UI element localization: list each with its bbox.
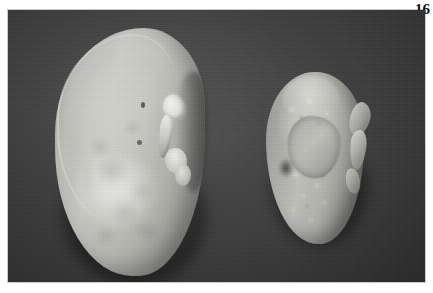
figure-plate: 16 [0,0,433,293]
kidney-left-capsular-fleck [141,102,145,108]
specimen-kidney-left [55,28,205,276]
gross-pathology-photograph [8,10,425,282]
specimen-kidney-right [266,72,364,244]
kidney-left-capsular-fleck [137,140,142,145]
kidney-right-surface-recess [278,158,294,178]
kidney-right-upper-pole-lobule [282,76,340,118]
